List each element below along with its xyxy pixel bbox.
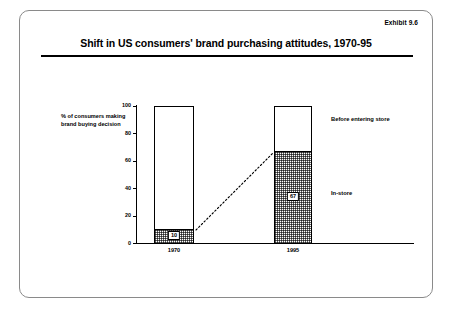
slide-frame: Exhibit 9.6 Shift in US consumers' brand…: [19, 10, 433, 298]
annotation-before-entering-store: Before entering store: [331, 115, 411, 123]
x-axis-label-1970: 1970: [144, 247, 204, 253]
bar-chart: % of consumers making brand buying decis…: [20, 11, 434, 299]
x-axis-label-1995: 1995: [263, 247, 323, 253]
trend-connector-line: [20, 11, 434, 299]
annotation-in-store: In-store: [331, 189, 411, 197]
